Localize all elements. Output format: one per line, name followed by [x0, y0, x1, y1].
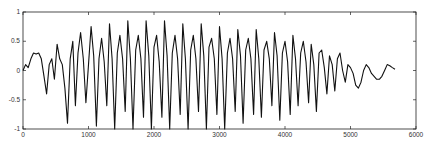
- y-tick-label: -0.5: [9, 96, 21, 103]
- y-tick-label: 0: [16, 67, 20, 74]
- x-tick-label: 4000: [278, 131, 293, 138]
- x-tick-label: 3000: [212, 131, 227, 138]
- x-tick-label: 5000: [343, 131, 358, 138]
- x-tick-label: 6000: [409, 131, 424, 138]
- y-tick-label: -1: [14, 125, 20, 132]
- y-tick-label: 1: [16, 8, 20, 15]
- y-tick-label: 0.5: [11, 37, 20, 44]
- x-tick-label: 0: [21, 131, 25, 138]
- line-chart: 0100020003000400050006000 -1-0.500.51: [0, 0, 430, 146]
- x-tick-label: 1000: [81, 131, 96, 138]
- x-tick-label: 2000: [147, 131, 162, 138]
